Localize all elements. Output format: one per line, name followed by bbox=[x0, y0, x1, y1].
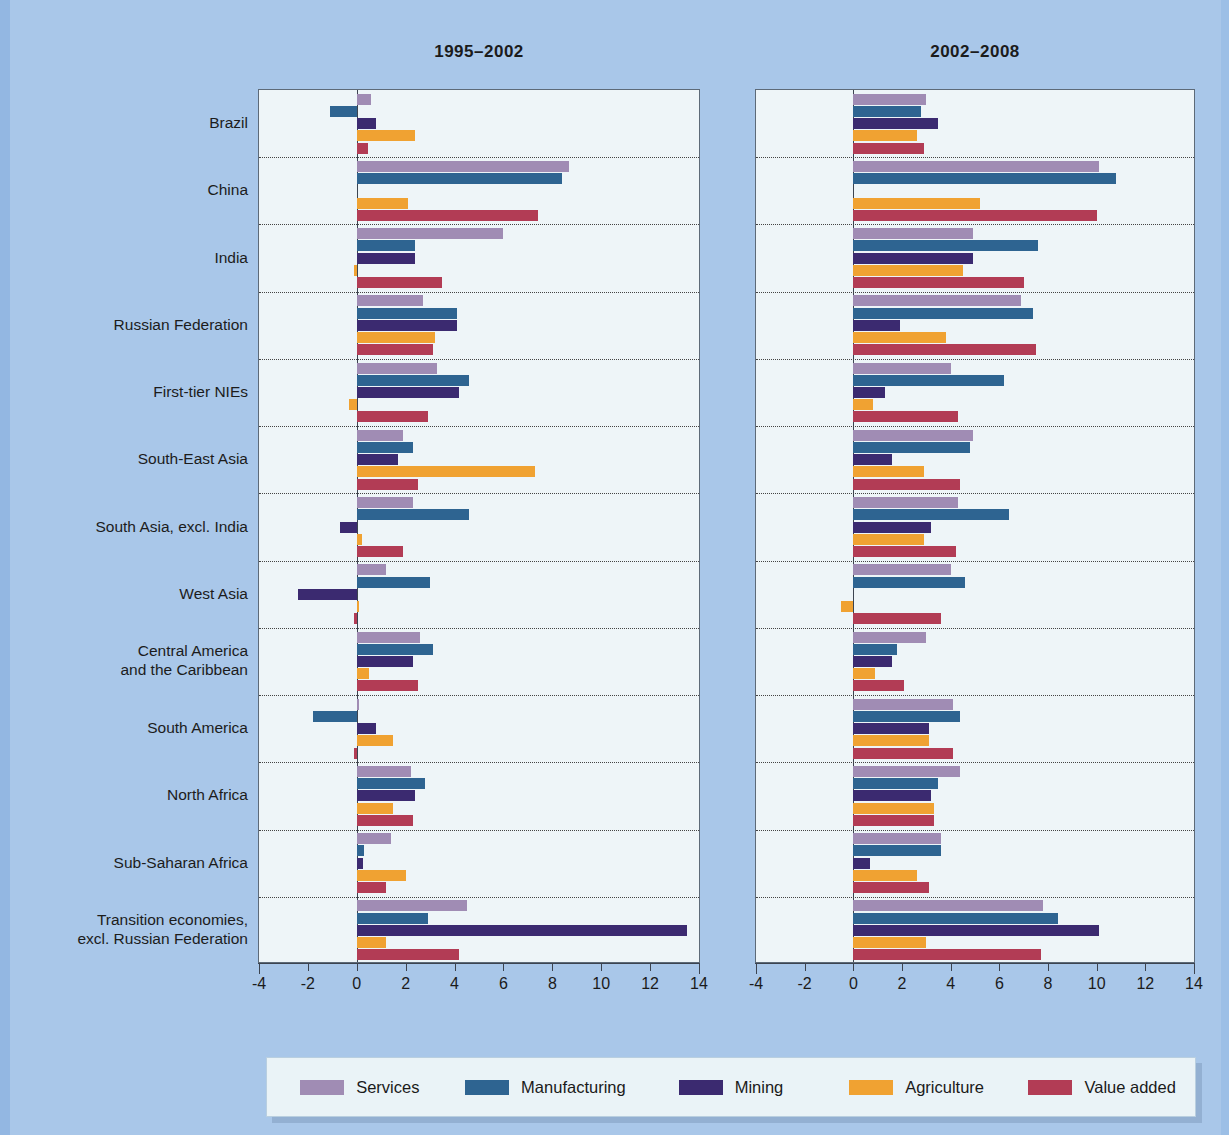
axis-tick bbox=[853, 963, 854, 971]
bar-services bbox=[357, 900, 467, 911]
bar-manufacturing bbox=[853, 711, 960, 722]
bar-manufacturing bbox=[313, 711, 357, 722]
bar-value-added bbox=[357, 143, 368, 154]
bar-mining bbox=[298, 589, 357, 600]
row-separator bbox=[259, 426, 699, 427]
bar-manufacturing bbox=[330, 106, 357, 117]
axis-tick-label: 0 bbox=[352, 975, 361, 993]
legend-swatch-agriculture bbox=[849, 1080, 893, 1095]
bar-mining bbox=[357, 118, 377, 129]
bar-mining bbox=[357, 320, 457, 331]
axis-tick bbox=[601, 963, 602, 971]
axis-tick-label: 4 bbox=[946, 975, 955, 993]
axis-tick bbox=[999, 963, 1000, 971]
axis-tick bbox=[406, 963, 407, 971]
bar-services bbox=[853, 295, 1021, 306]
panel-title-right: 2002–2008 bbox=[755, 42, 1195, 62]
axis-tick-label: 14 bbox=[1185, 975, 1203, 993]
category-label: South Asia, excl. India bbox=[8, 517, 248, 536]
row-separator bbox=[756, 762, 1194, 763]
bar-services bbox=[853, 632, 926, 643]
axis-tick-label: 2 bbox=[898, 975, 907, 993]
axis-tick bbox=[1145, 963, 1146, 971]
bar-agriculture bbox=[357, 466, 535, 477]
axis-tick-label: -2 bbox=[798, 975, 812, 993]
axis-tick bbox=[1194, 963, 1195, 974]
bar-manufacturing bbox=[357, 913, 428, 924]
bar-value-added bbox=[357, 411, 428, 422]
axis-tick bbox=[805, 963, 806, 971]
bar-agriculture bbox=[853, 803, 933, 814]
chart-legend: ServicesManufacturingMiningAgricultureVa… bbox=[266, 1057, 1196, 1117]
legend-label: Services bbox=[356, 1078, 419, 1097]
axis-tick-label: 2 bbox=[401, 975, 410, 993]
bar-services bbox=[357, 564, 386, 575]
row-separator bbox=[756, 426, 1194, 427]
axis-tick-label: -2 bbox=[301, 975, 315, 993]
x-axis-right: -4-202468101214 bbox=[755, 963, 1195, 1003]
bar-value-added bbox=[853, 479, 960, 490]
bar-manufacturing bbox=[853, 778, 938, 789]
bar-value-added bbox=[357, 546, 403, 557]
axis-tick bbox=[1097, 963, 1098, 971]
bar-manufacturing bbox=[357, 778, 425, 789]
bar-value-added bbox=[357, 479, 418, 490]
axis-tick-label: 10 bbox=[1088, 975, 1106, 993]
bar-mining bbox=[853, 723, 928, 734]
bar-value-added bbox=[853, 882, 928, 893]
axis-line bbox=[755, 963, 1195, 964]
row-separator bbox=[259, 292, 699, 293]
bar-mining bbox=[853, 656, 892, 667]
bar-agriculture bbox=[349, 399, 356, 410]
category-label: Brazil bbox=[8, 113, 248, 132]
bar-value-added bbox=[357, 344, 433, 355]
bar-services bbox=[357, 430, 403, 441]
bar-value-added bbox=[853, 949, 1040, 960]
bar-manufacturing bbox=[853, 644, 897, 655]
axis-tick bbox=[552, 963, 553, 971]
x-axis-left: -4-202468101214 bbox=[258, 963, 700, 1003]
axis-tick-label: 12 bbox=[1136, 975, 1154, 993]
bar-manufacturing bbox=[853, 173, 1116, 184]
bar-services bbox=[357, 94, 372, 105]
axis-tick bbox=[259, 963, 260, 974]
row-separator bbox=[259, 762, 699, 763]
row-separator bbox=[756, 561, 1194, 562]
axis-tick-label: -4 bbox=[749, 975, 763, 993]
bar-services bbox=[853, 766, 960, 777]
bar-agriculture bbox=[354, 265, 356, 276]
axis-tick bbox=[455, 963, 456, 971]
row-separator bbox=[756, 359, 1194, 360]
bar-mining bbox=[357, 925, 687, 936]
bar-mining bbox=[357, 723, 377, 734]
bar-manufacturing bbox=[853, 509, 1009, 520]
chart-page: 1995–2002 2002–2008 BrazilChinaIndiaRuss… bbox=[0, 0, 1229, 1135]
bar-value-added bbox=[357, 680, 418, 691]
bar-services bbox=[357, 833, 391, 844]
legend-item: Manufacturing bbox=[453, 1078, 639, 1097]
bar-mining bbox=[853, 522, 931, 533]
bar-agriculture bbox=[357, 735, 394, 746]
bar-value-added bbox=[853, 613, 941, 624]
category-label: Transition economies, excl. Russian Fede… bbox=[8, 910, 248, 948]
category-label: India bbox=[8, 248, 248, 267]
bar-agriculture bbox=[853, 870, 916, 881]
bar-manufacturing bbox=[853, 106, 921, 117]
legend-item: Agriculture bbox=[824, 1078, 1010, 1097]
bar-value-added bbox=[357, 949, 460, 960]
legend-item: Mining bbox=[638, 1078, 824, 1097]
axis-tick-label: 12 bbox=[641, 975, 659, 993]
bar-manufacturing bbox=[853, 577, 965, 588]
bar-value-added bbox=[853, 411, 958, 422]
bar-mining bbox=[853, 454, 892, 465]
bar-services bbox=[357, 766, 411, 777]
bar-services bbox=[853, 699, 953, 710]
axis-tick bbox=[1048, 963, 1049, 971]
category-label: South America bbox=[8, 718, 248, 737]
bar-agriculture bbox=[357, 937, 386, 948]
axis-tick bbox=[650, 963, 651, 971]
bar-agriculture bbox=[357, 198, 408, 209]
bar-services bbox=[357, 699, 359, 710]
axis-tick-label: 6 bbox=[499, 975, 508, 993]
category-label: First-tier NIEs bbox=[8, 382, 248, 401]
